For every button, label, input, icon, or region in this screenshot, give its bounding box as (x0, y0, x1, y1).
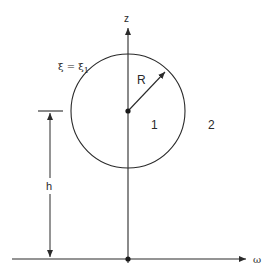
boundary-label-main: ξ = ξ (58, 61, 84, 72)
circle-boundary-label: ξ = ξ1 (58, 61, 89, 75)
height-dimension: h (38, 111, 63, 257)
vertical-axis: z (124, 13, 129, 263)
horizontal-axis: ω (12, 254, 261, 265)
diagram-canvas: ω z ξ = ξ1 R 1 2 h (0, 0, 271, 269)
radius-arrow-line (128, 72, 165, 111)
origin-dot (125, 256, 130, 261)
height-label: h (46, 180, 52, 192)
region-outside-label: 2 (208, 118, 215, 132)
vertical-axis-label: z (124, 13, 129, 24)
radius-arrow: R (128, 72, 165, 111)
boundary-label-subscript: 1 (84, 66, 89, 75)
center-dot (125, 108, 130, 113)
radius-label: R (137, 73, 146, 87)
horizontal-axis-label: ω (253, 254, 261, 265)
region-inside-label: 1 (151, 118, 158, 132)
circle-boundary: ξ = ξ1 (58, 54, 185, 168)
